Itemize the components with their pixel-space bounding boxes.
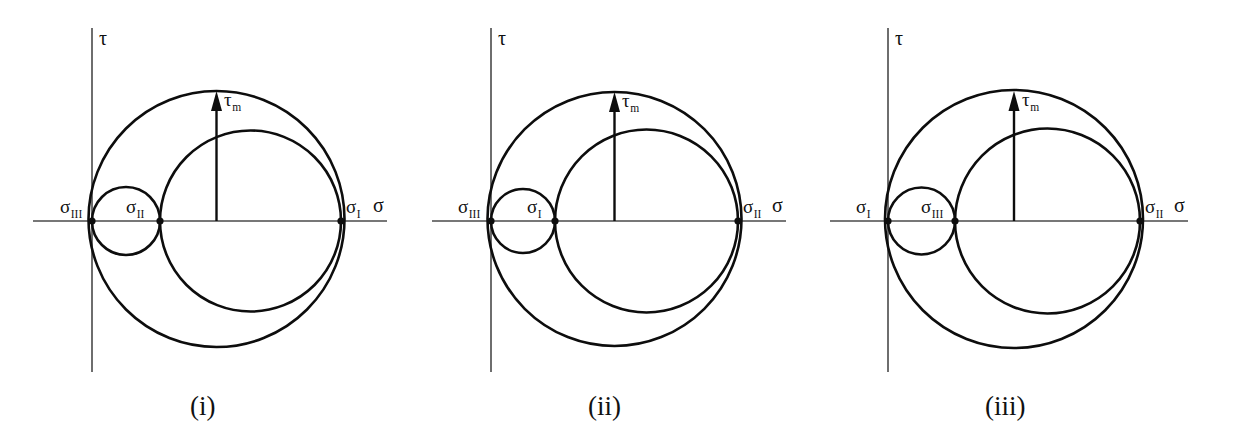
panel-caption-ii: (ii): [588, 391, 621, 421]
sigma-III-subscript: III: [71, 208, 83, 220]
sigma-axis-label: σ: [772, 194, 783, 216]
sigma-II-subscript: II: [1156, 208, 1164, 220]
panel-caption-i: (i): [190, 391, 215, 421]
tau-axis-label: τ: [498, 27, 506, 49]
sigma-II-label: σII: [743, 196, 762, 220]
sigma-II-label: σII: [126, 196, 145, 220]
panel-caption-iii: (iii): [985, 391, 1026, 421]
mohr-panel-ii: τmσIIIσIσIIστ(ii): [432, 27, 786, 421]
mohr-panel-iii: τmσIσIIIσIIστ(iii): [830, 27, 1188, 421]
sigma-III-label: σIII: [458, 196, 480, 220]
tau-max-arrow-head: [1009, 91, 1020, 111]
tau-max-subscript: m: [630, 102, 639, 114]
sigma-III-subscript: III: [469, 208, 481, 220]
sigma-I-subscript: I: [867, 208, 871, 220]
tau-axis-label: τ: [99, 27, 107, 49]
tau-max-subscript: m: [232, 101, 241, 113]
sigma-II-dot: [156, 217, 163, 224]
tau-max-arrow-head: [211, 91, 222, 111]
mohr-panel-i: τmσIIIσIIσIστ(i): [33, 27, 387, 421]
sigma-I-label: σI: [527, 196, 542, 220]
sigma-III-dot: [88, 217, 95, 224]
mohr-circle-figure: τmσIIIσIIσIστ(i)τmσIIIσIσIIστ(ii)τmσIσII…: [0, 0, 1246, 439]
sigma-III-dot: [951, 217, 958, 224]
sigma-I-label: σI: [346, 196, 361, 220]
tau-axis-label: τ: [895, 27, 903, 49]
sigma-axis-label: σ: [1174, 194, 1185, 216]
sigma-III-label: σIII: [921, 196, 943, 220]
sigma-I-label: σI: [856, 196, 871, 220]
sigma-III-subscript: III: [932, 208, 944, 220]
sigma-I-dot: [551, 217, 558, 224]
sigma-II-dot: [734, 217, 741, 224]
sigma-axis-label: σ: [373, 194, 384, 216]
sigma-II-label: σII: [1145, 196, 1164, 220]
sigma-II-subscript: II: [137, 208, 145, 220]
sigma-II-subscript: II: [754, 208, 762, 220]
sigma-III-dot: [487, 217, 494, 224]
tau-max-subscript: m: [1030, 101, 1039, 113]
sigma-II-dot: [1136, 217, 1143, 224]
sigma-I-subscript: I: [357, 208, 361, 220]
sigma-I-dot: [337, 217, 344, 224]
sigma-III-label: σIII: [60, 196, 82, 220]
tau-max-arrow-head: [609, 92, 620, 112]
mohr-circle-svg: τmσIIIσIIσIστ(i)τmσIIIσIσIIστ(ii)τmσIσII…: [0, 0, 1246, 439]
sigma-I-dot: [884, 217, 891, 224]
sigma-I-subscript: I: [538, 208, 542, 220]
